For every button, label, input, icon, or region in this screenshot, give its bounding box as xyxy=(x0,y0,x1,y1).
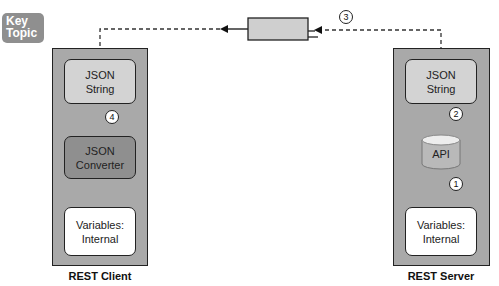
rest-server-label: REST Server xyxy=(381,270,499,282)
server-json-string-line1: JSON xyxy=(426,68,455,82)
server-variables-box: Variables: Internal xyxy=(405,207,477,256)
transport-message-box xyxy=(248,18,308,40)
server-variables-line1: Variables: xyxy=(417,218,465,232)
step-4-marker: 4 xyxy=(105,110,119,124)
client-converter-line2: Converter xyxy=(76,158,124,172)
client-json-string-box: JSON String xyxy=(64,59,136,104)
client-converter-line1: JSON xyxy=(85,144,114,158)
client-json-converter-box: JSON Converter xyxy=(64,136,136,179)
rest-client-label: REST Client xyxy=(40,270,160,282)
step-2-marker: 2 xyxy=(449,107,463,121)
server-json-string-box: JSON String xyxy=(405,59,477,104)
client-json-string-line2: String xyxy=(86,82,115,96)
server-variables-line2: Internal xyxy=(423,232,460,246)
step-3-marker: 3 xyxy=(339,10,353,24)
server-json-string-line2: String xyxy=(427,82,456,96)
step-1-marker: 1 xyxy=(449,177,463,191)
client-json-string-line1: JSON xyxy=(85,68,114,82)
client-variables-line2: Internal xyxy=(82,232,119,246)
client-variables-line1: Variables: xyxy=(76,218,124,232)
client-variables-box: Variables: Internal xyxy=(64,207,136,256)
api-label: API xyxy=(421,148,461,160)
